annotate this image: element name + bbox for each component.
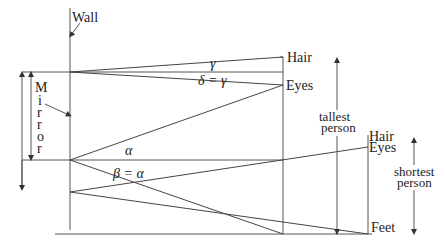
ray-hair-to-mirror-top — [70, 57, 283, 72]
mirror-diagram: Wall M i r r o r γ δ = γ α β = α Hair Ey… — [0, 0, 445, 248]
angle-gamma: γ — [210, 56, 216, 71]
mirror-letter: r — [37, 141, 42, 156]
ray-eyes-to-mirror-bottom — [70, 85, 283, 160]
angle-alpha: α — [125, 143, 133, 158]
wall-label: Wall — [72, 10, 98, 25]
tallest-eyes-label: Eyes — [286, 78, 313, 93]
angle-beta-eq-alpha: β = α — [112, 166, 144, 181]
tallest-label-line2: person — [321, 120, 356, 135]
shortest-eyes-label: Eyes — [369, 140, 396, 155]
ray-short-feet — [70, 192, 368, 234]
shortest-label-line2: person — [397, 175, 432, 190]
ray-eyes-to-mirror-top — [70, 72, 283, 85]
angle-delta-eq-gamma: δ = γ — [198, 73, 227, 88]
mirror-pointer-arrow — [45, 104, 69, 115]
feet-label: Feet — [371, 220, 395, 235]
tallest-hair-label: Hair — [287, 50, 312, 65]
mirror-label: M i r r o r — [35, 80, 48, 156]
